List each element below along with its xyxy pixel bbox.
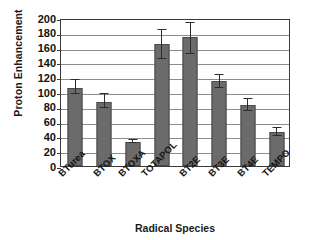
error-bar-cap-top — [128, 139, 137, 140]
error-bar-cap-top — [215, 74, 224, 75]
bar-group — [176, 20, 205, 166]
error-bar-cap-bottom — [243, 110, 252, 111]
y-axis-tick-label: 200 — [20, 14, 56, 25]
error-bar-cap-top — [71, 79, 80, 80]
error-bar-cap-top — [157, 29, 166, 30]
error-bar-cap-bottom — [272, 135, 281, 136]
error-bar-stem — [161, 29, 162, 59]
error-bar-stem — [190, 22, 191, 54]
error-bar — [215, 74, 224, 89]
error-bar-stem — [104, 93, 105, 108]
error-bar — [272, 127, 281, 136]
error-bar-cap-bottom — [215, 87, 224, 88]
y-axis-tick-label: 40 — [20, 132, 56, 143]
error-bar-stem — [75, 79, 76, 95]
error-bar-cap-bottom — [128, 142, 137, 143]
error-bar — [71, 79, 80, 95]
error-bar — [100, 93, 109, 108]
error-bar-cap-bottom — [100, 107, 109, 108]
bar-group — [90, 20, 119, 166]
error-bar-cap-bottom — [71, 93, 80, 94]
y-axis-tick-label: 160 — [20, 43, 56, 54]
error-bar — [157, 29, 166, 59]
error-bar-cap-top — [243, 98, 252, 99]
y-axis-tick-label: 80 — [20, 102, 56, 113]
error-bar-cap-top — [272, 127, 281, 128]
bar-group — [61, 20, 90, 166]
error-bar-cap-top — [186, 22, 195, 23]
y-axis-tick-label: 180 — [20, 28, 56, 39]
y-axis-tick-label: 140 — [20, 58, 56, 69]
error-bar-cap-top — [100, 93, 109, 94]
x-axis-tick-labels: BTureaBTOXBTOXATOTAPOLBT2EBT3EBT4ETEMPO — [60, 169, 290, 211]
error-bar — [128, 139, 137, 143]
y-axis-tick-label: 120 — [20, 73, 56, 84]
error-bar-cap-bottom — [157, 58, 166, 59]
bar-group — [119, 20, 148, 166]
error-bar — [243, 98, 252, 111]
y-axis-tick-label: 60 — [20, 117, 56, 128]
bar-group — [234, 20, 263, 166]
bar — [212, 81, 227, 166]
bar — [183, 37, 198, 167]
y-axis-tick-labels: 020406080100120140160180200 — [20, 13, 56, 173]
chart-figure: Proton Enhancement 020406080100120140160… — [0, 0, 314, 240]
error-bar-cap-bottom — [186, 53, 195, 54]
y-axis-tick-label: 20 — [20, 147, 56, 158]
y-axis-tick-label: 100 — [20, 88, 56, 99]
bar-group — [205, 20, 234, 166]
x-axis-title: Radical Species — [60, 222, 290, 234]
y-axis-tick-label: 0 — [20, 162, 56, 173]
error-bar-stem — [219, 74, 220, 89]
bar-group — [262, 20, 291, 166]
error-bar — [186, 22, 195, 54]
